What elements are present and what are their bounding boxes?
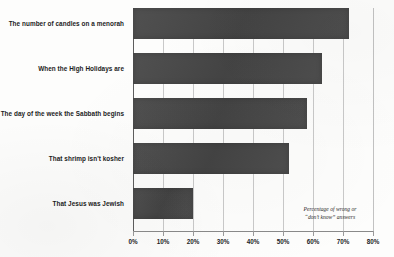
category-label-sabbath-day: The day of the week the Sabbath begins — [1, 110, 124, 117]
axis-note-line-2: “don’t know” answers — [297, 213, 363, 221]
xtick-80 — [373, 231, 374, 236]
xtick-label-0: 0% — [128, 238, 137, 245]
xtick-label-80: 80% — [367, 238, 380, 245]
xtick-label-40: 40% — [247, 238, 260, 245]
gridline-80 — [373, 8, 374, 231]
axis-note-line-1: Percentage of wrong or — [297, 205, 363, 213]
xtick-label-30: 30% — [217, 238, 230, 245]
bar-row — [133, 143, 289, 174]
xtick-0 — [133, 231, 134, 236]
bar-high-holidays[interactable] — [133, 53, 322, 84]
xtick-label-50: 50% — [277, 238, 290, 245]
xtick-30 — [223, 231, 224, 236]
xtick-label-60: 60% — [307, 238, 320, 245]
bar-row — [133, 53, 322, 84]
xtick-label-20: 20% — [187, 238, 200, 245]
bar-row — [133, 98, 307, 129]
bar-row — [133, 188, 193, 219]
category-label-group: The number of candles on a menorah When … — [0, 0, 128, 257]
bar-sabbath-day[interactable] — [133, 98, 307, 129]
xtick-70 — [343, 231, 344, 236]
category-label-jesus-jewish: That Jesus was Jewish — [53, 200, 124, 207]
axis-note-annotation: Percentage of wrong or “don’t know” answ… — [297, 205, 363, 221]
category-label-shrimp-kosher: That shrimp isn't kosher — [49, 155, 124, 162]
xtick-10 — [163, 231, 164, 236]
bar-jesus-jewish[interactable] — [133, 188, 193, 219]
xtick-label-10: 10% — [157, 238, 170, 245]
xtick-label-70: 70% — [337, 238, 350, 245]
xtick-50 — [283, 231, 284, 236]
gridline-70 — [343, 8, 344, 231]
xtick-20 — [193, 231, 194, 236]
bar-row — [133, 8, 349, 39]
xtick-40 — [253, 231, 254, 236]
gridline-60 — [313, 8, 314, 231]
chart-page: 0% 10% 20% 30% 40% 50% 60% 70% 80% The n… — [0, 0, 394, 257]
category-label-high-holidays: When the High Holidays are — [38, 65, 124, 72]
plot-area — [133, 8, 373, 231]
bar-menorah-candles[interactable] — [133, 8, 349, 39]
xtick-60 — [313, 231, 314, 236]
bar-shrimp-kosher[interactable] — [133, 143, 289, 174]
category-label-menorah-candles: The number of candles on a menorah — [9, 20, 124, 27]
